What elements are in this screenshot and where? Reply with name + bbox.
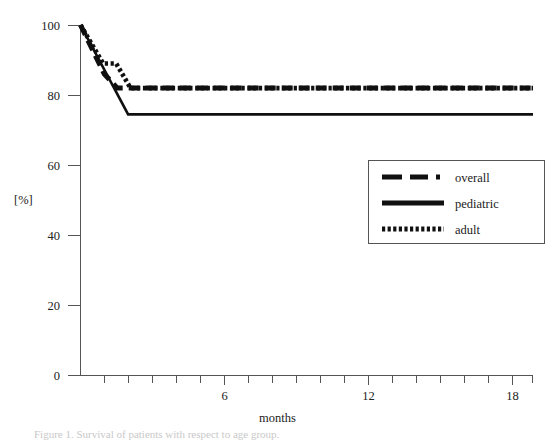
legend-label-adult: adult (455, 223, 481, 237)
legend-label-overall: overall (455, 171, 490, 185)
series-line-adult (81, 25, 534, 88)
y-axis-title: [%] (14, 193, 33, 207)
x-axis-title: months (259, 411, 296, 425)
y-axis-ticks (68, 26, 81, 376)
y-tick-label-60: 60 (48, 159, 61, 173)
legend: overall pediatric adult (369, 161, 545, 244)
series-layer (81, 25, 534, 114)
x-tick-label-12: 12 (362, 389, 375, 403)
y-tick-label-80: 80 (48, 89, 61, 103)
y-tick-label-20: 20 (48, 299, 61, 313)
y-tick-label-40: 40 (48, 229, 61, 243)
x-tick-label-6: 6 (221, 389, 227, 403)
y-tick-label-100: 100 (41, 19, 60, 33)
legend-label-pediatric: pediatric (455, 197, 499, 211)
series-line-overall (81, 25, 534, 88)
figure-caption: Figure 1. Survival of patients with resp… (34, 428, 534, 440)
series-line-pediatric (81, 25, 534, 114)
y-tick-label-0: 0 (54, 369, 60, 383)
x-tick-label-18: 18 (506, 389, 519, 403)
x-axis-ticks (105, 376, 533, 386)
